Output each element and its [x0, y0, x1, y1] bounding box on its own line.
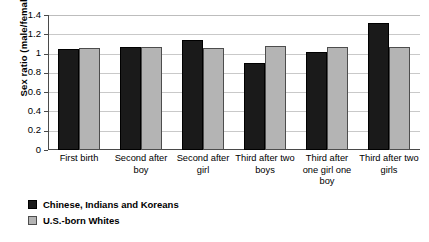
legend-label: Chinese, Indians and Koreans: [43, 199, 179, 210]
y-axis-tick-label: 0.8: [28, 66, 41, 77]
bar[interactable]: [306, 52, 327, 150]
bar-chart: Sex ratio (male/female) 00.20.40.60.811.…: [0, 0, 429, 242]
bar[interactable]: [120, 47, 141, 150]
legend-label: U.S.-born Whites: [43, 215, 120, 226]
y-axis-tick-label: 0.4: [28, 105, 41, 116]
bar[interactable]: [327, 47, 348, 150]
x-axis-label: Third after one girl one boy: [296, 153, 358, 188]
bar[interactable]: [79, 48, 100, 150]
y-axis-tick-labels: 00.20.40.60.811.21.4: [0, 15, 48, 150]
gray-square-swatch: [28, 216, 37, 225]
bar[interactable]: [141, 47, 162, 150]
bar[interactable]: [58, 49, 79, 150]
bar-group: [296, 15, 358, 150]
y-axis-tick-label: 0: [36, 144, 41, 155]
bar-group: [172, 15, 234, 150]
legend-item[interactable]: U.S.-born Whites: [28, 212, 179, 228]
y-axis-tick-label: 1.2: [28, 28, 41, 39]
bar[interactable]: [265, 46, 286, 150]
x-axis-label: Third after two boys: [234, 153, 296, 188]
legend: Chinese, Indians and KoreansU.S.-born Wh…: [28, 196, 179, 228]
black-square-swatch: [28, 200, 37, 209]
bar[interactable]: [203, 48, 224, 150]
x-axis-label: Third after two girls: [358, 153, 420, 188]
bar-group: [358, 15, 420, 150]
x-axis-label: First birth: [48, 153, 110, 188]
bar[interactable]: [182, 40, 203, 150]
bar[interactable]: [389, 47, 410, 150]
x-axis-category-labels: First birthSecond after boySecond after …: [48, 153, 420, 188]
x-axis-label: Second after girl: [172, 153, 234, 188]
legend-item[interactable]: Chinese, Indians and Koreans: [28, 196, 179, 212]
y-axis-tick-label: 1.4: [28, 9, 41, 20]
bar-group: [234, 15, 296, 150]
y-axis-tick-mark: [44, 150, 48, 151]
bars-layer: [48, 15, 420, 150]
bar[interactable]: [244, 63, 265, 150]
bar-group: [110, 15, 172, 150]
x-axis-label: Second after boy: [110, 153, 172, 188]
y-axis-tick-label: 0.6: [28, 86, 41, 97]
y-axis-tick-label: 0.2: [28, 124, 41, 135]
bar[interactable]: [368, 23, 389, 150]
y-axis-tick-label: 1: [36, 47, 41, 58]
bar-group: [48, 15, 110, 150]
